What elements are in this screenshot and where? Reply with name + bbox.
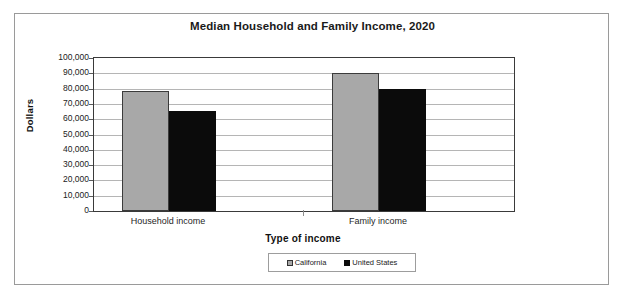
y-axis-tick-mark — [89, 211, 93, 212]
y-axis-tick-mark — [89, 58, 93, 59]
y-axis-tick-label: 80,000 — [63, 83, 89, 93]
chart-title: Median Household and Family Income, 2020 — [15, 20, 610, 32]
y-axis-tick-mark — [89, 119, 93, 120]
chart-legend: California United States — [268, 253, 416, 272]
plot-area — [93, 57, 515, 212]
legend-swatch-icon-california — [287, 260, 293, 266]
y-axis-tick-label: 50,000 — [63, 129, 89, 139]
y-axis-tick-mark — [89, 165, 93, 166]
y-axis-tick-mark — [89, 135, 93, 136]
bar-family-income-california — [332, 73, 379, 211]
y-axis-tick-label: 20,000 — [63, 174, 89, 184]
x-axis-category-separator — [303, 210, 304, 216]
y-axis-tick-label: 30,000 — [63, 159, 89, 169]
y-axis-title: Dollars — [24, 86, 35, 146]
y-axis-tick-label: 90,000 — [63, 67, 89, 77]
y-axis-tick-label: 0 — [84, 205, 89, 215]
bar-household-income-california — [122, 91, 169, 211]
legend-label-california: California — [295, 258, 327, 267]
legend-entry-united-states: United States — [344, 258, 397, 267]
y-axis-tick-label: 70,000 — [63, 98, 89, 108]
y-axis-tick-mark — [89, 196, 93, 197]
legend-entry-california: California — [287, 258, 327, 267]
chart-figure: Median Household and Family Income, 2020… — [14, 13, 609, 285]
y-axis-tick-mark — [89, 150, 93, 151]
y-axis-tick-label: 60,000 — [63, 113, 89, 123]
x-axis-tick-label: Family income — [349, 216, 407, 226]
y-axis-tick-label: 100,000 — [58, 52, 89, 62]
y-axis-tick-mark — [89, 89, 93, 90]
gridline — [94, 73, 514, 74]
y-axis-tick-labels: 010,00020,00030,00040,00050,00060,00070,… — [37, 57, 89, 210]
x-axis-tick-label: Household income — [131, 216, 206, 226]
gridline — [94, 89, 514, 90]
y-axis-tick-mark — [89, 73, 93, 74]
legend-swatch-icon-united-states — [344, 260, 350, 266]
y-axis-tick-label: 40,000 — [63, 144, 89, 154]
legend-label-united-states: United States — [352, 258, 397, 267]
bar-household-income-united-states — [169, 111, 216, 211]
x-axis-title: Type of income — [93, 233, 513, 244]
y-axis-tick-mark — [89, 104, 93, 105]
y-axis-tick-mark — [89, 180, 93, 181]
bar-family-income-united-states — [379, 89, 426, 211]
y-axis-tick-label: 10,000 — [63, 190, 89, 200]
